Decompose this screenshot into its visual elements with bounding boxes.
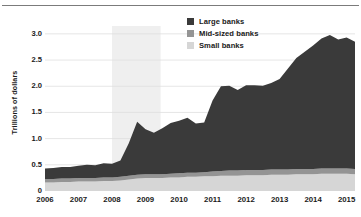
legend-item[interactable]: Mid-sized banks [187, 28, 297, 39]
y-tick-label: 3.0 [16, 30, 42, 38]
y-tick-label: 2.5 [16, 56, 42, 64]
chart-legend: Large banksMid-sized banksSmall banks [187, 16, 297, 52]
area-series-large-banks [45, 35, 355, 179]
legend-item-label: Mid-sized banks [199, 29, 258, 38]
x-tick-label: 2012 [237, 196, 254, 204]
top-divider-rule [2, 5, 359, 6]
y-tick-label: 1.0 [16, 135, 42, 143]
legend-swatch-icon [187, 18, 194, 25]
x-tick-label: 2009 [137, 196, 154, 204]
legend-item-label: Large banks [199, 17, 244, 26]
legend-swatch-icon [187, 42, 194, 49]
x-tick-label: 2011 [204, 196, 221, 204]
x-tick-label: 2010 [170, 196, 187, 204]
y-tick-label: 2.0 [16, 82, 42, 90]
y-tick-label: 1.5 [16, 108, 42, 116]
legend-swatch-icon [187, 30, 194, 37]
x-tick-label: 2014 [304, 196, 321, 204]
x-tick-label: 2013 [271, 196, 288, 204]
x-tick-label: 2007 [70, 196, 87, 204]
x-axis-tick-labels: 2006200720082009201020112012201320142015 [0, 196, 361, 210]
x-tick-label: 2015 [338, 196, 355, 204]
y-axis-tick-labels: 00.51.01.52.02.53.0 [14, 0, 42, 217]
y-tick-label: 0.5 [16, 161, 42, 169]
area-series-group [45, 35, 355, 191]
x-tick-label: 2006 [36, 196, 53, 204]
legend-item[interactable]: Small banks [187, 40, 297, 51]
y-tick-label: 0 [16, 187, 42, 195]
chart-figure: Trillions of dollars 00.51.01.52.02.53.0… [0, 0, 361, 217]
legend-item[interactable]: Large banks [187, 16, 297, 27]
legend-item-label: Small banks [199, 41, 244, 50]
x-tick-label: 2008 [103, 196, 120, 204]
